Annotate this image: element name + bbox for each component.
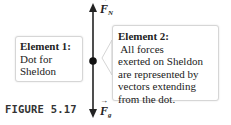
element1-line1: Dot for: [20, 53, 78, 66]
figure-caption: FIGURE 5.17: [5, 103, 77, 115]
vector-label-gravity: → Fg: [100, 104, 112, 119]
element2-line: from the dot.: [118, 93, 213, 106]
element2-title-rest: All forces: [118, 43, 164, 55]
arrowhead-down-icon: [89, 109, 97, 118]
element2-line: are represented by: [118, 68, 213, 81]
element1-title: Element 1:: [20, 40, 71, 52]
vector-label-normal: → FN: [100, 2, 113, 17]
arrowhead-up-icon: [89, 3, 97, 12]
element2-line: vectors extending: [118, 80, 213, 93]
element1-line2: Sheldon: [20, 65, 78, 78]
element2-title: Element 2:: [118, 30, 169, 42]
sheldon-dot: [89, 57, 97, 65]
element1-callout: Element 1: Dot for Sheldon: [15, 36, 83, 82]
element2-callout: Element 2: All forces exerted on Sheldon…: [112, 25, 219, 101]
callout-pointer-2: [102, 40, 112, 75]
element2-line: exerted on Sheldon: [118, 55, 213, 68]
